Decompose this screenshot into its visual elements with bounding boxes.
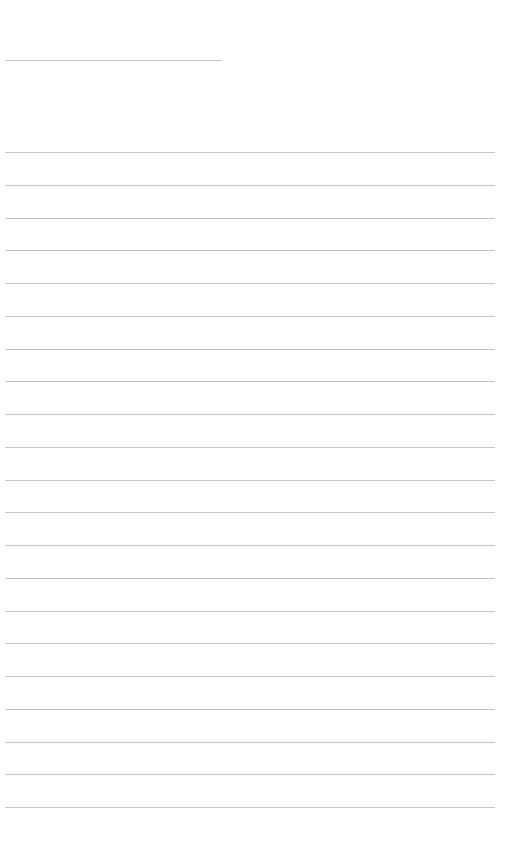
writing-line (5, 447, 495, 448)
writing-line (5, 611, 495, 612)
writing-line (5, 185, 495, 186)
writing-line (5, 283, 495, 284)
writing-line (5, 512, 495, 513)
writing-line (5, 709, 495, 710)
writing-line (5, 774, 495, 775)
lined-page (0, 0, 515, 846)
writing-line (5, 381, 495, 382)
writing-line (5, 676, 495, 677)
writing-line (5, 578, 495, 579)
writing-line (5, 742, 495, 743)
writing-line (5, 807, 495, 808)
writing-line (5, 250, 495, 251)
writing-line (5, 545, 495, 546)
writing-line (5, 218, 495, 219)
title-line (5, 60, 222, 61)
writing-line (5, 414, 495, 415)
writing-line (5, 316, 495, 317)
writing-line (5, 480, 495, 481)
writing-line (5, 152, 495, 153)
writing-line (5, 643, 495, 644)
writing-line (5, 349, 495, 350)
